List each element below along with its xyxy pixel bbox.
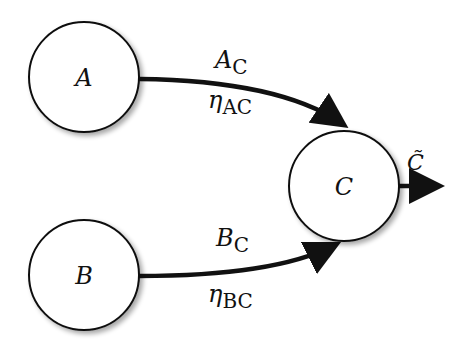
- flow-diagram: A B C AC ηAC BC ηBC C̃: [0, 0, 468, 346]
- edge-ac-flow-label: AC: [213, 46, 248, 79]
- node-a-label: A: [73, 64, 92, 92]
- edge-bc-efficiency-label: ηBC: [208, 280, 253, 313]
- output-label: C̃: [407, 150, 424, 175]
- node-b: B: [29, 220, 139, 330]
- node-c-label: C: [335, 173, 353, 201]
- edge-ac-efficiency-label: ηAC: [208, 86, 252, 119]
- edge-bc-flow-label: BC: [215, 224, 249, 257]
- node-c: C: [289, 131, 399, 241]
- node-b-label: B: [74, 262, 93, 290]
- node-a: A: [29, 22, 139, 132]
